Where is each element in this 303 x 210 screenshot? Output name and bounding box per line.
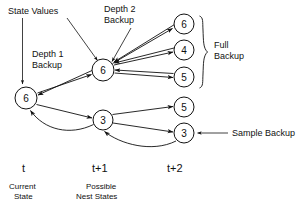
- timeline-step-t2: t+2: [167, 162, 183, 175]
- label-state-values: State Values: [8, 6, 58, 16]
- node-t2-5a-label: 5: [181, 72, 187, 83]
- diagram-canvas: 6 6 3 6 4 5 5: [0, 0, 303, 210]
- edge-t1-6-to-t6-back: [38, 71, 92, 96]
- edge-t2-5a-to-t1-6-back: [115, 70, 174, 74]
- timeline-step-t: t: [22, 162, 25, 175]
- timeline-step-t1: t+1: [92, 162, 108, 175]
- node-t1-3-label: 3: [100, 115, 106, 126]
- node-t2-3[interactable]: 3: [174, 123, 194, 143]
- edge-t6-to-t1-3-forward: [37, 105, 93, 119]
- label-depth2-backup-line2: Backup: [104, 15, 134, 25]
- edge-t1-3-to-t2-5b-forward: [113, 107, 174, 115]
- edge-t6-to-t1-6-forward: [38, 75, 92, 94]
- node-t2-5b[interactable]: 5: [174, 97, 194, 117]
- node-group: 6 6 3 6 4 5 5: [15, 14, 194, 143]
- node-t2-3-label: 3: [181, 128, 187, 139]
- curly-bracket-icon: [200, 16, 208, 88]
- timeline-caption-t1-line1: Possible: [86, 182, 116, 191]
- callout-arrow-group: [23, 18, 229, 133]
- node-t2-6-label: 6: [181, 19, 187, 30]
- edge-group-full-backup: [113, 25, 175, 78]
- timeline-caption-t-line1: Current: [9, 182, 36, 191]
- edge-t2-6-to-t1-6-back: [114, 25, 175, 63]
- backup-diagram-svg: 6 6 3 6 4 5 5: [0, 0, 303, 210]
- node-t2-4-label: 4: [181, 45, 187, 56]
- label-depth1-backup-line1: Depth 1: [32, 49, 64, 59]
- edge-t2-3-to-t1-3-curve: [105, 132, 177, 147]
- node-t1-6-label: 6: [100, 65, 106, 76]
- label-depth2-backup-line1: Depth 2: [104, 4, 136, 14]
- edge-t1-6-to-t2-6-forward: [113, 29, 173, 64]
- full-backup-bracket: [200, 16, 208, 88]
- node-t2-5b-label: 5: [181, 102, 187, 113]
- edge-t1-6-to-t2-5a-forward: [115, 73, 174, 78]
- timeline-caption-t-line2: State: [14, 192, 33, 201]
- node-t-6[interactable]: 6: [15, 87, 37, 109]
- node-t2-6[interactable]: 6: [174, 14, 194, 34]
- node-t2-4[interactable]: 4: [174, 40, 194, 60]
- node-t-6-label: 6: [23, 93, 29, 104]
- label-full-backup-line2: Backup: [214, 51, 244, 61]
- edge-t1-6-to-t2-4-forward: [114, 52, 173, 65]
- node-t1-6[interactable]: 6: [92, 59, 114, 81]
- label-full-backup-line1: Full: [214, 40, 229, 50]
- timeline-caption-t1-line2: Nest States: [76, 192, 117, 201]
- callout-arrow-depth2: [112, 28, 131, 62]
- callout-arrow-state-values: [67, 18, 98, 61]
- label-sample-backup: Sample Backup: [232, 128, 295, 138]
- node-t1-3[interactable]: 3: [93, 110, 113, 130]
- edge-t1-3-to-t2-3-forward: [113, 123, 173, 132]
- label-depth1-backup-line2: Backup: [32, 60, 62, 70]
- edge-t1-3-to-t6-curve: [31, 111, 94, 131]
- edge-group-sample-backup: [105, 107, 177, 147]
- edge-t2-4-to-t1-6-back: [115, 48, 175, 63]
- edge-group-t-to-t1: [31, 71, 94, 131]
- node-t2-5a[interactable]: 5: [174, 67, 194, 87]
